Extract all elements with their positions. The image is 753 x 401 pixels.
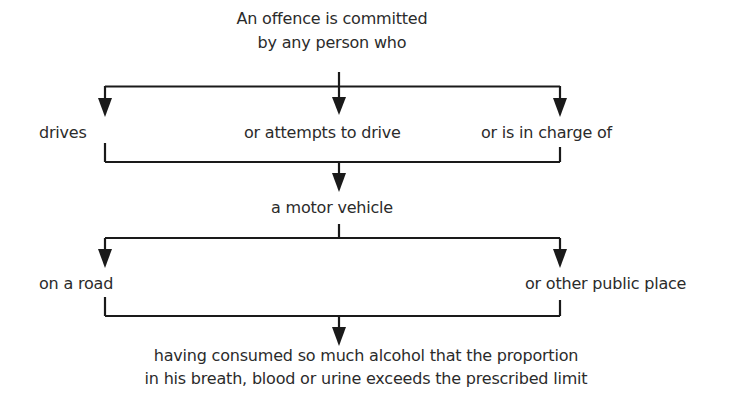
action-drives: drives [39, 122, 87, 144]
location-public-place: or other public place [525, 273, 686, 295]
arrow-down-icon [98, 249, 112, 268]
title-line-1: An offence is committed [182, 8, 482, 30]
conclusion-line-2: in his breath, blood or urine exceeds th… [116, 368, 616, 390]
action-attempts-to-drive: or attempts to drive [244, 122, 401, 144]
arrow-down-icon [98, 98, 112, 117]
object-motor-vehicle: a motor vehicle [232, 197, 432, 219]
location-road: on a road [39, 273, 113, 295]
conclusion-line-1: having consumed so much alcohol that the… [116, 345, 616, 367]
action-in-charge-of: or is in charge of [481, 122, 612, 144]
offence-flow-diagram: An offence is committed by any person wh… [0, 0, 753, 401]
arrow-down-icon [332, 327, 346, 346]
title-line-2: by any person who [182, 32, 482, 54]
arrow-down-icon [332, 97, 346, 115]
arrow-down-icon [553, 249, 567, 268]
arrow-down-icon [332, 173, 346, 192]
arrow-down-icon [553, 98, 567, 117]
